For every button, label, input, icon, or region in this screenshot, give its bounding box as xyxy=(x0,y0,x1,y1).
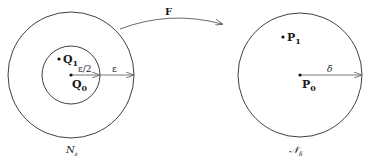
point-p0-dot xyxy=(298,73,301,76)
neighborhood-mapping-diagram: Q1 Q0 ε/2 ε Nε F P1 P0 δ 𝒩δ xyxy=(0,0,371,167)
point-p1-label: P1 xyxy=(287,31,301,46)
half-epsilon-label: ε/2 xyxy=(78,64,91,74)
right-neighborhood: P1 P0 δ 𝒩δ xyxy=(238,13,362,157)
delta-label: δ xyxy=(327,64,332,74)
mapping-f-label: F xyxy=(165,6,172,17)
mapping-f: F xyxy=(120,6,222,29)
point-q1-label: Q1 xyxy=(63,53,78,68)
point-p0-label: P0 xyxy=(302,78,316,93)
mapping-arrow xyxy=(120,18,222,29)
point-q1-dot xyxy=(57,57,60,60)
epsilon-label: ε xyxy=(112,64,117,74)
point-q0-dot xyxy=(69,73,72,76)
point-q0-label: Q0 xyxy=(72,78,88,93)
set-n-delta-label: 𝒩δ xyxy=(289,144,303,157)
left-neighborhood: Q1 Q0 ε/2 ε Nε xyxy=(8,12,134,157)
set-n-epsilon-label: Nε xyxy=(65,144,78,157)
point-p1-dot xyxy=(281,35,284,38)
